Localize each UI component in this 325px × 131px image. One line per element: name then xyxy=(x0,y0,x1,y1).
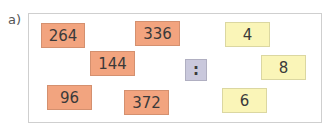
dividend-card: 264 xyxy=(41,23,85,48)
divisor-card: 4 xyxy=(225,22,270,47)
divisor-card: 6 xyxy=(222,88,267,113)
divisor-card: 8 xyxy=(261,55,306,80)
dividend-card: 336 xyxy=(135,21,180,46)
division-operator-card: : xyxy=(185,59,207,81)
dividend-card: 96 xyxy=(47,85,92,110)
dividend-card: 144 xyxy=(90,51,135,76)
dividend-card: 372 xyxy=(124,90,169,115)
exercise-label: a) xyxy=(8,12,21,27)
